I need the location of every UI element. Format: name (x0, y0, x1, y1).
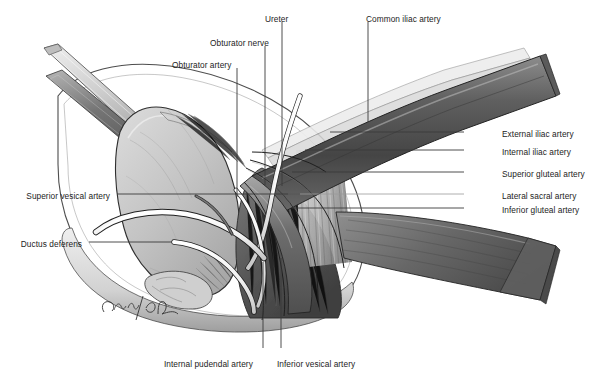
label-obturator-artery: Obturator artery (172, 60, 231, 70)
label-inferior-vesical-artery: Inferior vesical artery (277, 359, 355, 369)
label-superior-vesical-artery: Superior vesical artery (26, 191, 110, 201)
label-internal-pudendal-artery: Internal pudendal artery (164, 359, 253, 369)
label-lateral-sacral-artery: Lateral sacral artery (502, 191, 576, 201)
illustration-canvas (0, 0, 600, 378)
label-ureter: Ureter (265, 14, 288, 24)
label-obturator-nerve: Obturator nerve (210, 38, 269, 48)
label-internal-iliac-artery: Internal iliac artery (502, 147, 571, 157)
label-external-iliac-artery: External iliac artery (502, 129, 574, 139)
label-common-iliac-artery: Common iliac artery (366, 14, 441, 24)
anatomical-figure: UreterObturator nerveObturator arteryCom… (0, 0, 600, 378)
label-ductus-deferens: Ductus deferens (21, 239, 82, 249)
label-superior-gluteal-artery: Superior gluteal artery (502, 169, 585, 179)
label-inferior-gluteal-artery: Inferior gluteal artery (502, 205, 579, 215)
